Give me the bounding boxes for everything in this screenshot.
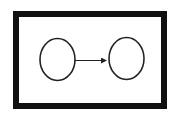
node-right <box>109 38 144 80</box>
node-left <box>40 39 75 81</box>
diagram-canvas <box>0 0 181 115</box>
